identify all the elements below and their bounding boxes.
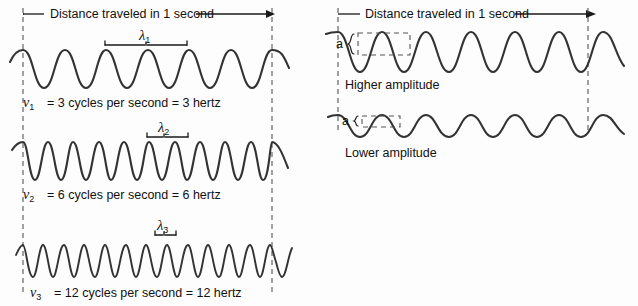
frequency-subscript-3: 3 — [36, 292, 41, 302]
wave-2-group — [12, 133, 288, 180]
wavelength-label-3: λ3 — [156, 217, 168, 235]
wavelength-symbol-3: λ — [156, 217, 163, 233]
higher-amplitude-caption: Higher amplitude — [345, 78, 440, 92]
amplitude-symbol-lower: a — [342, 114, 349, 128]
wave-path-lower-amplitude — [328, 115, 624, 137]
right-distance-label: Distance traveled in 1 second — [365, 7, 529, 21]
left-panel: ν1= 3 cycles per second = 3 hertz ν2= 6 … — [10, 8, 292, 302]
wavelength-subscript-1: 1 — [145, 35, 150, 45]
frequency-label-1: ν1= 3 cycles per second = 3 hertz — [23, 95, 221, 112]
amplitude-symbol-higher: a — [336, 37, 343, 51]
right-panel: a Higher amplitude a Lower amplitude — [326, 8, 624, 160]
wavelength-label-2: λ2 — [157, 119, 169, 137]
lower-amplitude-wave-group: a — [328, 114, 624, 137]
frequency-text-2: = 6 cycles per second = 6 hertz — [47, 188, 221, 202]
wave-frequency-amplitude-figure: ν1= 3 cycles per second = 3 hertz ν2= 6 … — [0, 0, 638, 306]
frequency-text-1: = 3 cycles per second = 3 hertz — [47, 96, 221, 110]
wave-path-1 — [10, 50, 289, 88]
lower-amplitude-caption: Lower amplitude — [345, 146, 437, 160]
wave-path-higher-amplitude — [326, 32, 624, 72]
wave-3-group — [16, 231, 292, 277]
wavelength-label-1: λ1 — [138, 27, 150, 45]
wave-1-group — [10, 41, 289, 88]
frequency-subscript-2: 2 — [29, 194, 34, 204]
wavelength-subscript-2: 2 — [164, 127, 169, 137]
wavelength-symbol-1: λ — [138, 27, 145, 43]
frequency-text-3: = 12 cycles per second = 12 hertz — [54, 286, 242, 300]
frequency-subscript-1: 1 — [29, 102, 34, 112]
wave-path-2 — [12, 142, 288, 180]
wavelength-subscript-3: 3 — [163, 225, 168, 235]
wavelength-symbol-2: λ — [157, 119, 164, 135]
higher-amplitude-wave-group: a — [326, 32, 624, 72]
frequency-label-3: ν3= 12 cycles per second = 12 hertz — [30, 285, 242, 302]
amplitude-marker-higher — [348, 33, 410, 55]
frequency-label-2: ν2= 6 cycles per second = 6 hertz — [23, 187, 221, 204]
wave-path-3 — [16, 245, 292, 277]
left-distance-label: Distance traveled in 1 second — [50, 7, 214, 21]
